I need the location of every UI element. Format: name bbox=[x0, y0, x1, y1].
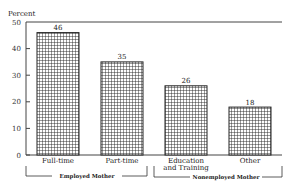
value-label-part-time: 35 bbox=[118, 53, 127, 61]
category-full-time: Full-time bbox=[42, 157, 74, 165]
group-label-employed: Employed Mother bbox=[60, 173, 115, 180]
bar-other bbox=[229, 107, 271, 155]
bars bbox=[37, 33, 271, 155]
y-tick-10: 10 bbox=[12, 125, 21, 133]
bar-education-training bbox=[165, 86, 207, 155]
value-label-full-time: 46 bbox=[54, 24, 63, 32]
group-label-nonemployed: Nonemployed Mother bbox=[193, 174, 260, 181]
y-tick-30: 30 bbox=[12, 72, 21, 80]
y-tick-50: 50 bbox=[12, 19, 21, 27]
category-other: Other bbox=[240, 157, 261, 165]
y-tick-20: 20 bbox=[12, 98, 21, 106]
y-axis-ticks: 0 10 20 30 40 50 bbox=[12, 19, 30, 160]
value-label-other: 18 bbox=[246, 99, 255, 107]
category-part-time: Part-time bbox=[106, 157, 139, 165]
group-bracket-employed: Employed Mother bbox=[26, 166, 147, 180]
bar-part-time bbox=[101, 62, 143, 155]
bar-full-time bbox=[37, 33, 79, 155]
category-and-training: and Training bbox=[163, 164, 209, 172]
y-tick-0: 0 bbox=[17, 152, 21, 160]
value-label-education: 26 bbox=[182, 77, 191, 85]
bar-chart: Percent 0 10 20 30 40 50 46 35 26 18 Ful… bbox=[0, 0, 294, 188]
y-tick-40: 40 bbox=[12, 45, 21, 53]
y-axis-label: Percent bbox=[8, 10, 35, 18]
